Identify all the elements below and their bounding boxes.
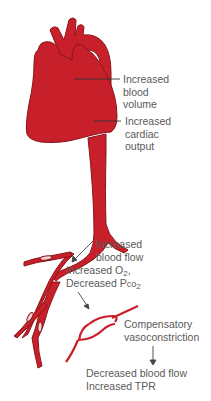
label-pco2: Decreased Pco2 [66, 277, 141, 291]
label-cardiac-output: Increased cardiac output [125, 115, 171, 153]
label-line: blood [123, 86, 169, 99]
label-line: output [125, 140, 171, 153]
pco2-co: co [127, 279, 137, 289]
label-line: volume [123, 98, 169, 111]
o2-suffix: , [128, 264, 131, 276]
label-line: vasoconstriction [124, 331, 199, 344]
label-line: Increased [123, 73, 169, 86]
o2-text: Increased O [66, 264, 123, 276]
label-line: Increased [96, 238, 143, 251]
label-line: Decreased blood flow [86, 367, 187, 380]
label-o2: Increased O2, [66, 264, 141, 277]
label-vasoconstriction: Compensatory vasoconstriction [124, 318, 199, 343]
label-result: Decreased blood flow Increased TPR [86, 367, 187, 392]
label-line: Increased TPR [86, 380, 187, 393]
label-blood-flow: Increased blood flow [96, 238, 143, 263]
label-line: blood flow [96, 251, 143, 264]
label-line: Increased [125, 115, 171, 128]
label-line: cardiac [125, 128, 171, 141]
label-blood-volume: Increased blood volume [123, 73, 169, 111]
label-line: Compensatory [124, 318, 199, 331]
label-gases: Increased O2, Decreased Pco2 [66, 264, 141, 290]
pco2-subscript: 2 [136, 282, 140, 291]
pco2-text: Decreased P [66, 277, 127, 289]
